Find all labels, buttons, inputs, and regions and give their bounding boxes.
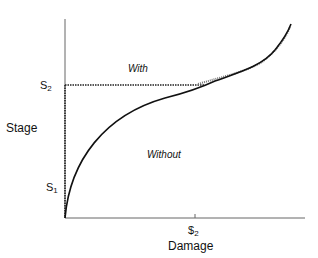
diagram-canvas (0, 0, 318, 258)
region-label-without: Without (147, 150, 181, 160)
without-curve (65, 24, 291, 218)
x-tick-s2-label: $2 (188, 225, 199, 238)
y-tick-s2: S2 (40, 80, 52, 93)
region-label-with: With (128, 64, 148, 74)
y-axis-label: Stage (6, 122, 37, 134)
with-dotted-curve (198, 27, 290, 84)
y-tick-s1: S1 (46, 182, 58, 195)
x-axis-label: Damage (168, 240, 213, 252)
